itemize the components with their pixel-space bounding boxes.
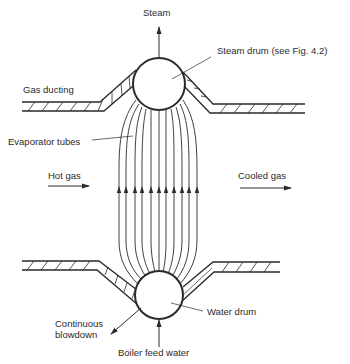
- label-continuous-blowdown-1: Continuous: [55, 318, 103, 329]
- label-boiler-feed-water: Boiler feed water: [118, 347, 189, 358]
- water-drum: [135, 271, 183, 319]
- label-water-drum: Water drum: [207, 306, 256, 317]
- label-cooled-gas: Cooled gas: [238, 170, 286, 181]
- tube-flow-arrows: [117, 186, 199, 193]
- label-hot-gas: Hot gas: [48, 170, 81, 181]
- label-continuous-blowdown-2: blowdown: [55, 329, 97, 340]
- blowdown-arrow: [111, 308, 141, 334]
- steam-drum: [133, 58, 185, 110]
- label-steam-drum: Steam drum (see Fig. 4.2): [217, 45, 327, 56]
- label-evaporator-tubes: Evaporator tubes: [8, 136, 80, 147]
- label-steam: Steam: [143, 7, 170, 18]
- label-gas-ducting: Gas ducting: [23, 84, 74, 95]
